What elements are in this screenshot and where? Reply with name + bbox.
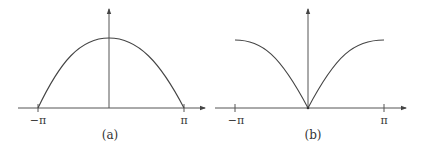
panel-b: −π π (b) — [215, 9, 406, 142]
figure: −π π (a) −π π (b) — [0, 0, 424, 147]
tick-label-pi: π — [380, 114, 387, 127]
caption-a: (a) — [102, 128, 119, 142]
tick-label-neg-pi: −π — [228, 114, 244, 127]
curve-b-right — [308, 40, 384, 108]
caption-b: (b) — [304, 128, 321, 142]
tick-label-pi: π — [180, 114, 187, 127]
curve-a — [38, 38, 184, 108]
panel-a: −π π (a) — [18, 9, 205, 142]
tick-label-neg-pi: −π — [30, 114, 46, 127]
curve-b-left — [235, 40, 308, 108]
origin-point — [307, 107, 310, 110]
